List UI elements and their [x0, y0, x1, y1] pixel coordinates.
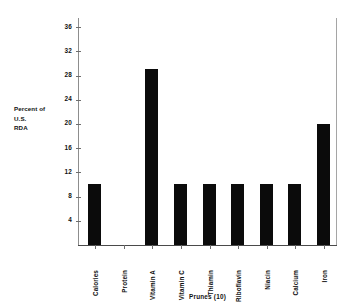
x-axis-title: Prunes (10) [78, 293, 337, 300]
x-axis-tick [295, 245, 296, 249]
x-axis-tick [324, 245, 325, 249]
x-axis-label: Protein [120, 270, 127, 293]
x-axis-label-slot: Protein [111, 270, 137, 306]
x-axis-label-slot: Niacin [254, 270, 280, 306]
y-axis-tick-label: 20 [64, 119, 72, 126]
x-axis-label-slot: Riboflavin [225, 270, 251, 306]
bar-slot [139, 18, 165, 245]
y-axis-tick-label: 16 [64, 144, 72, 151]
bar-slot [282, 18, 308, 245]
x-axis-label-slot: Calories [82, 270, 108, 306]
bar-slot [168, 18, 194, 245]
x-axis-label-slot: Iron [311, 270, 337, 306]
x-axis-label-slot: Vitamin A [139, 270, 165, 306]
x-axis-label: Iron [321, 270, 328, 283]
x-axis-tick [238, 245, 239, 249]
y-axis-tick-label: 32 [64, 47, 72, 54]
x-axis-label-slot: Thiamin [197, 270, 223, 306]
bar [317, 124, 330, 245]
y-axis-tick-label: 12 [64, 168, 72, 175]
bar-slot [225, 18, 251, 245]
x-axis-tick [210, 245, 211, 249]
y-axis-title: Percent of U.S. RDA [14, 104, 74, 133]
bar-slot [254, 18, 280, 245]
bars-layer [78, 18, 337, 246]
bar-slot [82, 18, 108, 245]
x-axis-tick [267, 245, 268, 249]
plot-area: 4812162024283236 CaloriesProteinVitamin … [78, 18, 337, 246]
y-axis-tick-label: 36 [64, 23, 72, 30]
y-axis-tick-label: 8 [68, 192, 72, 199]
y-axis-title-line-1: Percent of [14, 104, 74, 114]
x-axis-tick [124, 245, 125, 249]
bar [88, 184, 101, 245]
y-axis-tick-label: 4 [68, 216, 72, 223]
x-axis-label-slot: Vitamin C [168, 270, 194, 306]
x-axis-tick [95, 245, 96, 249]
bar-slot [197, 18, 223, 245]
y-axis-tick-label: 24 [64, 95, 72, 102]
bar [203, 184, 216, 245]
x-axis-label: Calcium [292, 270, 299, 296]
bar [145, 69, 158, 245]
bar-slot [111, 18, 137, 245]
x-axis-label: Thiamin [206, 270, 213, 295]
y-axis-tick-label: 28 [64, 71, 72, 78]
x-axis-label: Niacin [263, 270, 270, 290]
bar [174, 184, 187, 245]
bar [288, 184, 301, 245]
bar-chart: Percent of U.S. RDA 4812162024283236 Cal… [0, 0, 349, 306]
x-axis-tick [181, 245, 182, 249]
x-axis-tick [152, 245, 153, 249]
x-axis-label-slot: Calcium [282, 270, 308, 306]
bar [260, 184, 273, 245]
bar [231, 184, 244, 245]
bar-slot [311, 18, 337, 245]
